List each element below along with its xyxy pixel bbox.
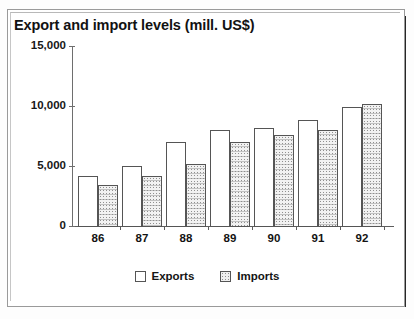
bar-imports-86: [98, 185, 118, 227]
y-tick-mark: [69, 106, 75, 107]
bar-imports-87: [142, 176, 162, 227]
legend-entry-imports[interactable]: Imports: [220, 270, 279, 282]
x-tick-label: 89: [208, 232, 252, 244]
bar-exports-89: [210, 130, 230, 227]
y-tick-mark: [69, 226, 75, 227]
x-tick-mark: [252, 226, 253, 230]
y-tick-label: 5,000: [37, 159, 66, 171]
x-tick-label: 92: [340, 232, 384, 244]
y-tick-label: 15,000: [31, 39, 66, 51]
x-tick-mark: [384, 226, 385, 230]
bar-exports-88: [166, 142, 186, 227]
x-tick-mark: [296, 226, 297, 230]
x-tick-label: 87: [120, 232, 164, 244]
x-tick-label: 90: [252, 232, 296, 244]
legend-swatch-icon: [220, 271, 231, 282]
x-tick-mark: [164, 226, 165, 230]
bar-exports-92: [342, 107, 362, 227]
bar-exports-86: [78, 176, 98, 227]
y-tick-mark: [69, 46, 75, 47]
x-tick-mark: [208, 226, 209, 230]
x-tick-label: 88: [164, 232, 208, 244]
bar-exports-91: [298, 120, 318, 227]
y-tick-label: 10,000: [31, 99, 66, 111]
bar-imports-90: [274, 135, 294, 227]
bar-imports-92: [362, 104, 382, 227]
legend-label: Exports: [152, 270, 195, 282]
chart-figure: Export and import levels (mill. US$) 05,…: [0, 0, 414, 319]
bar-imports-88: [186, 164, 206, 227]
y-tick-label: 0: [60, 219, 66, 231]
bar-exports-87: [122, 166, 142, 227]
x-tick-label: 86: [76, 232, 120, 244]
bar-imports-91: [318, 130, 338, 227]
x-tick-mark: [120, 226, 121, 230]
y-tick-mark: [69, 166, 75, 167]
legend-entry-exports[interactable]: Exports: [135, 270, 195, 282]
bar-exports-90: [254, 128, 274, 227]
x-tick-mark: [340, 226, 341, 230]
legend-swatch-icon: [135, 271, 146, 282]
y-axis-line: [72, 46, 73, 227]
bar-imports-89: [230, 142, 250, 227]
x-tick-label: 91: [296, 232, 340, 244]
legend-label: Imports: [237, 270, 279, 282]
chart-legend: ExportsImports: [0, 270, 414, 282]
